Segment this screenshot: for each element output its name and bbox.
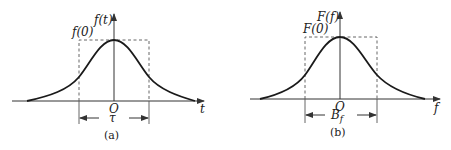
bell-curve-a (27, 40, 195, 101)
x-axis-label-b: f (433, 101, 441, 115)
panel-b: F(f) F(0) O f Bf (b) (250, 10, 441, 139)
bell-curve-b (260, 37, 425, 99)
x-axis-label-a: t (200, 102, 205, 116)
caption-a: (a) (104, 129, 119, 142)
peak-label-a: f(0) (71, 25, 94, 39)
y-axis-label-a: f(t) (93, 13, 113, 27)
peak-label-b: F(0) (302, 22, 329, 36)
panel-a: f(t) f(0) O t τ (a) (12, 13, 205, 142)
equivalent-rect-b (305, 37, 377, 99)
diagram-canvas: f(t) f(0) O t τ (a) F(f) F(0) O f Bf (b) (0, 0, 451, 150)
caption-b: (b) (330, 126, 346, 139)
width-label-a: τ (109, 111, 116, 125)
